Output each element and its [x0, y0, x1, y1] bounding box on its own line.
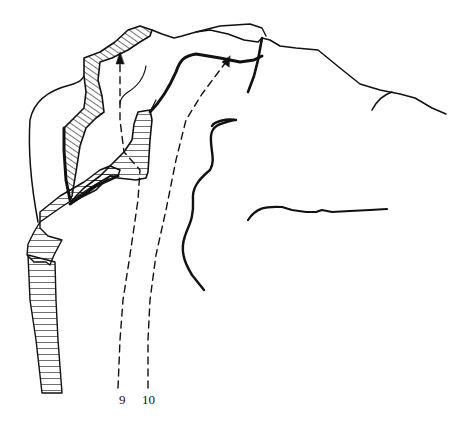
route-10-line — [148, 62, 226, 388]
right-gully-outline — [183, 120, 234, 290]
central-pillar-outline — [150, 54, 262, 112]
ledge-line — [248, 207, 387, 220]
route-9-line — [118, 64, 140, 388]
route-10-label: 10 — [142, 392, 155, 408]
summit-ridge — [152, 30, 446, 114]
left-pillar-strip — [28, 255, 62, 393]
rock-face-topo — [0, 0, 459, 426]
crack-line — [120, 66, 146, 104]
route-9-label: 9 — [119, 392, 126, 408]
